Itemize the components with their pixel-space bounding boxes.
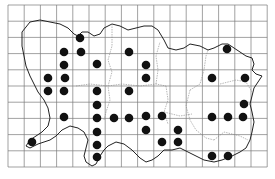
record-dot	[60, 61, 69, 70]
record-dots	[28, 34, 250, 162]
record-dot	[93, 114, 102, 123]
record-dot	[158, 112, 167, 121]
record-dot	[77, 48, 86, 57]
record-dot	[241, 74, 250, 83]
record-dot	[142, 112, 151, 121]
record-dot	[125, 48, 134, 57]
record-dot	[125, 87, 134, 96]
record-dot	[60, 48, 69, 57]
record-dot	[158, 138, 167, 147]
parish-boundaries	[76, 24, 252, 140]
record-dot	[93, 60, 102, 69]
record-dot	[142, 61, 151, 70]
record-dot	[44, 87, 53, 96]
record-dot	[28, 138, 37, 147]
record-dot	[93, 153, 102, 162]
record-dot	[239, 113, 248, 122]
record-dot	[110, 114, 119, 123]
coastline	[22, 20, 262, 166]
record-dot	[125, 114, 134, 123]
distribution-map	[0, 0, 275, 179]
record-dot	[142, 74, 151, 83]
record-dot	[93, 128, 102, 137]
grid-lines	[8, 5, 267, 167]
record-dot	[224, 152, 233, 161]
record-dot	[208, 113, 217, 122]
record-dot	[93, 87, 102, 96]
record-dot	[93, 101, 102, 110]
record-dot	[61, 74, 70, 83]
record-dot	[60, 113, 69, 122]
record-dot	[76, 34, 85, 43]
record-dot	[208, 152, 217, 161]
record-dot	[223, 45, 232, 54]
record-dot	[44, 74, 53, 83]
record-dot	[60, 87, 69, 96]
record-dot	[224, 113, 233, 122]
record-dot	[174, 138, 183, 147]
record-dot	[240, 100, 249, 109]
record-dot	[174, 126, 183, 135]
record-dot	[93, 141, 102, 150]
record-dot	[142, 126, 151, 135]
record-dot	[208, 74, 217, 83]
